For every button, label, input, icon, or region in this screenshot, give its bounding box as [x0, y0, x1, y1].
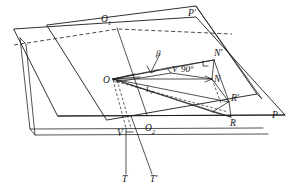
diagram-canvas: O 1 P' O β V 90° N' N i v R' R P O 2 V T… — [0, 0, 293, 192]
label-r: R — [229, 118, 236, 128]
label-n-prime: N' — [213, 48, 223, 58]
geometry-figure: O 1 P' O β V 90° N' N i v R' R P O 2 V T… — [0, 0, 293, 192]
slab-left-edge — [20, 38, 35, 135]
label-r-prime: R' — [230, 93, 240, 103]
label-p: P — [271, 110, 278, 120]
label-incidence: i — [146, 84, 149, 94]
label-o1: O — [101, 14, 108, 24]
label-o-origin: O — [103, 75, 110, 85]
label-t: T — [122, 174, 128, 184]
label-beta: β — [155, 48, 161, 58]
label-p-prime: P' — [187, 8, 197, 18]
label-o1-subscript: 1 — [108, 19, 111, 26]
label-n: N — [213, 74, 221, 84]
label-o2: O — [145, 123, 152, 133]
label-t-prime: T' — [150, 174, 158, 184]
label-90-degrees: 90° — [181, 64, 194, 74]
label-incidence-subscript: v — [150, 88, 153, 95]
